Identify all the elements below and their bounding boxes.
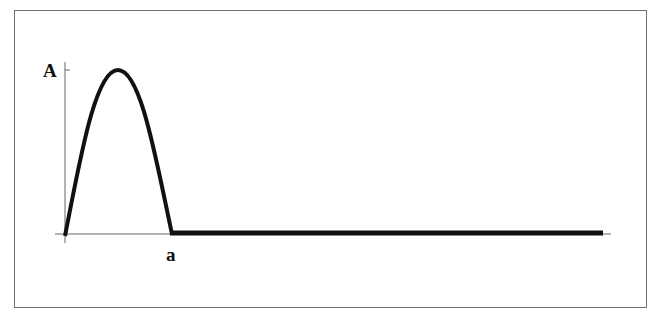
pulse-curve (65, 70, 172, 236)
pulse-plot (0, 0, 666, 328)
x-label-a: a (166, 244, 176, 266)
y-label-A: A (43, 60, 57, 82)
